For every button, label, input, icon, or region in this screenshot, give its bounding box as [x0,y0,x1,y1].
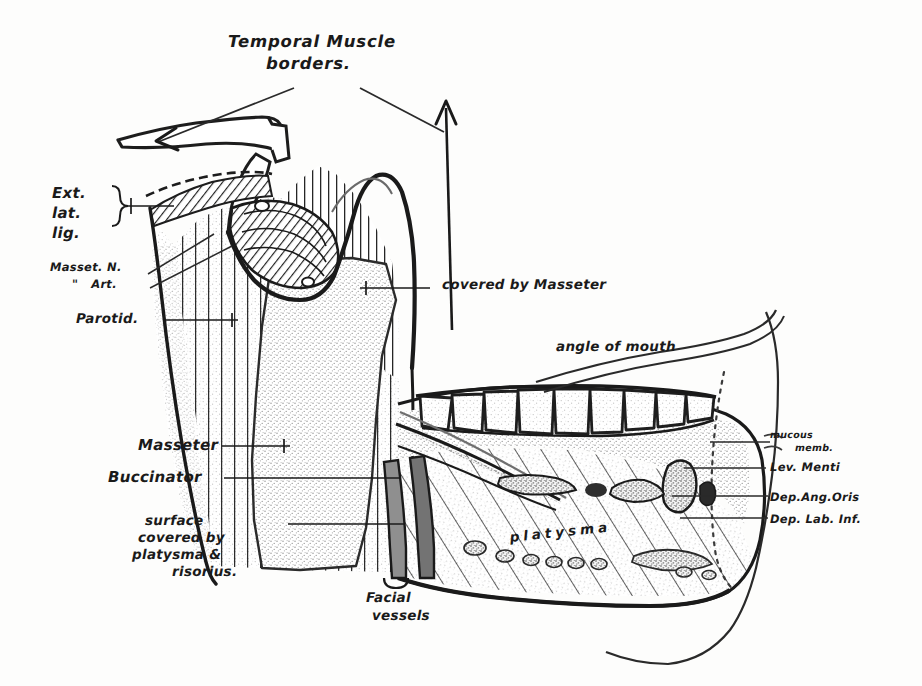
label-surface-4: risorius. [172,565,237,580]
mandible-drawing-svg [0,0,922,686]
label-lev-menti: Lev. Menti [770,461,840,474]
label-surface-2: covered by [138,531,225,546]
label-parotid: Parotid. [76,312,138,327]
label-mucous-1: mucous [770,431,813,442]
label-lig: lig. [52,225,80,242]
label-dep-ang-oris: Dep.Ang.Oris [770,491,859,504]
label-surface-3: platysma & [132,548,221,563]
label-dep-lab-inf: Dep. Lab. Inf. [770,513,861,526]
label-mucous-2: memb. [795,444,833,455]
label-facial-vessels-1: Facial [366,591,411,606]
title-line-2: borders. [266,55,351,73]
title-line-1: Temporal Muscle [228,33,396,51]
label-masseter: Masseter [138,437,218,454]
label-buccinator: Buccinator [108,469,202,486]
label-lat: lat. [52,205,81,222]
label-angle-of-mouth: angle of mouth [556,340,676,355]
label-masset-art: " Art. [72,278,117,291]
label-surface-1: surface [145,514,204,529]
label-ext: Ext. [52,185,86,202]
anatomical-figure: Temporal Muscle borders. Ext. lat. lig. … [0,0,922,686]
label-facial-vessels-2: vessels [372,609,430,624]
label-covered-by-masseter: covered by Masseter [442,278,606,293]
label-masset-n: Masset. N. [50,261,122,274]
